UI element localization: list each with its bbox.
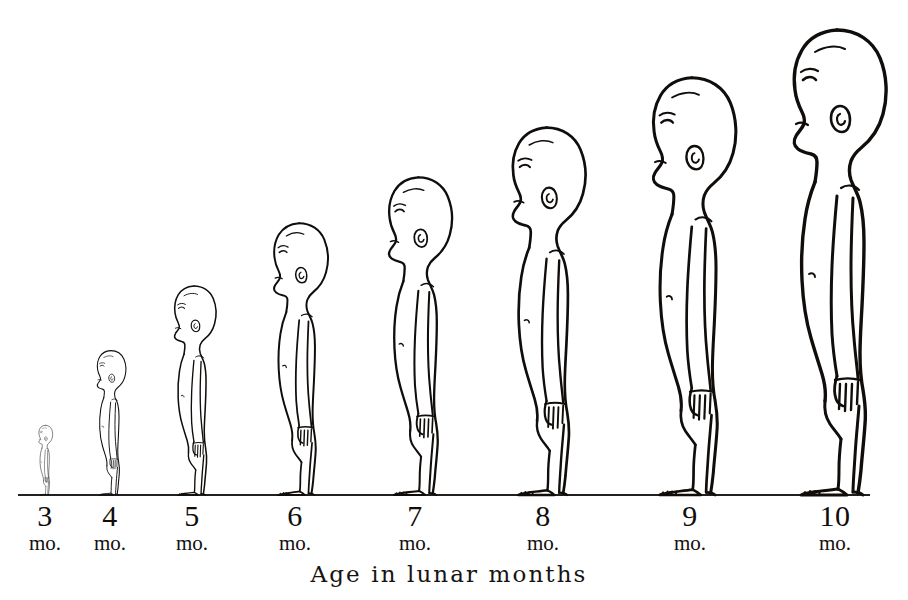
- fetus-figure-5mo: [175, 286, 216, 495]
- fetal-growth-figure: 3mo.4mo.5mo.6mo.7mo.8mo.9mo.10mo. Age in…: [0, 0, 908, 600]
- fetus-figures-group: [39, 30, 886, 495]
- fetus-figure-9mo: [653, 78, 735, 495]
- fetus-figure-3mo: [39, 425, 53, 495]
- fetus-figure-6mo: [274, 223, 328, 495]
- fetus-figure-7mo: [389, 177, 452, 495]
- fetus-figure-8mo: [513, 128, 586, 495]
- figure-drawing-canvas: [0, 0, 908, 600]
- fetus-figure-10mo: [794, 30, 886, 495]
- fetus-figure-4mo: [97, 351, 126, 495]
